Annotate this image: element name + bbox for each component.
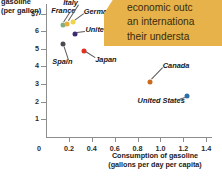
data-point (72, 31, 77, 36)
x-axis-line (46, 137, 212, 138)
y-tick (41, 66, 46, 67)
y-tick (41, 49, 46, 50)
y-tick-label: $7 (31, 9, 39, 18)
chart-screenshot: gasoline (per gallon) 0 $7654321 0.20.40… (0, 0, 222, 176)
y-tick-label: 5 (35, 44, 39, 53)
x-tick (183, 137, 184, 142)
data-point (185, 94, 190, 99)
callout-line-1: economic outc (127, 1, 222, 15)
point-label: Spain (52, 58, 72, 66)
leader-line (151, 68, 163, 80)
x-tick (115, 137, 116, 142)
x-tick (206, 137, 207, 142)
y-tick (41, 102, 46, 103)
x-tick-label: 0.2 (64, 144, 74, 153)
data-point (147, 79, 152, 84)
y-tick-label: 6 (35, 27, 39, 36)
x-axis-title: Consumption of gasoline (gallons per day… (88, 152, 222, 169)
callout-line-3: their understa (127, 30, 222, 44)
y-tick-label: 1 (35, 115, 39, 124)
point-label: Canada (163, 62, 190, 70)
origin-label: 0 (37, 144, 41, 153)
x-axis-title-line-2: (gallons per day per capita) (88, 161, 222, 170)
leader-line (78, 31, 86, 33)
point-label: United States (138, 97, 185, 105)
point-label: Japan (95, 56, 116, 64)
x-tick (69, 137, 70, 142)
x-tick (160, 137, 161, 142)
data-point (81, 49, 86, 54)
y-tick-label: 3 (35, 79, 39, 88)
y-tick (41, 119, 46, 120)
y-tick (41, 14, 46, 15)
callout-line-2: an internationa (127, 15, 222, 29)
data-point (60, 41, 65, 46)
data-point (70, 20, 75, 25)
callout-text: economic outc an internationa their unde… (127, 1, 222, 44)
x-tick (92, 137, 93, 142)
y-tick-label: 2 (35, 97, 39, 106)
data-point (65, 21, 70, 26)
y-axis-line (46, 4, 47, 138)
y-tick (41, 84, 46, 85)
y-tick-label: 4 (35, 62, 39, 71)
x-tick (138, 137, 139, 142)
y-tick (41, 31, 46, 32)
leader-line (74, 13, 83, 20)
